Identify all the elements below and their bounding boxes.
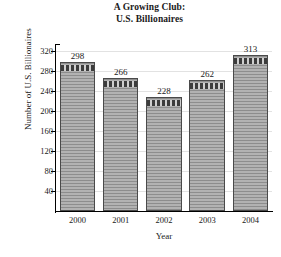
chart-title-line-1: A Growing Club: bbox=[18, 2, 281, 14]
y-tick-label: 80 bbox=[45, 166, 54, 176]
y-tick-label: 200 bbox=[40, 106, 53, 116]
y-tick-label: 280 bbox=[40, 66, 53, 76]
chart-title: A Growing Club: U.S. Billionaires bbox=[0, 2, 281, 25]
bar-group: 2662001 bbox=[99, 46, 142, 211]
x-axis-line bbox=[55, 211, 273, 212]
x-tick-label: 2001 bbox=[99, 215, 142, 225]
y-axis-title: Number of U.S. Billionaires bbox=[23, 4, 33, 154]
bar-group: 2982000 bbox=[56, 46, 99, 211]
bar bbox=[233, 55, 268, 212]
bar bbox=[60, 62, 95, 211]
y-tick-label: 120 bbox=[40, 146, 53, 156]
y-tick-label: 240 bbox=[40, 86, 53, 96]
bar-top-band bbox=[61, 65, 94, 71]
x-tick-label: 2004 bbox=[229, 215, 272, 225]
x-axis-title: Year bbox=[56, 231, 272, 241]
plot-area: 4080120160200240280320 29820002662001228… bbox=[56, 46, 272, 211]
bar-top-band bbox=[147, 100, 180, 106]
bar-top-band bbox=[104, 81, 137, 87]
bar-value-label: 298 bbox=[56, 51, 99, 61]
x-tick-label: 2002 bbox=[142, 215, 185, 225]
bar bbox=[103, 78, 138, 211]
bar-value-label: 262 bbox=[186, 69, 229, 79]
bar-value-label: 266 bbox=[99, 67, 142, 77]
bar-value-label: 228 bbox=[142, 86, 185, 96]
y-tick-label: 320 bbox=[40, 46, 53, 56]
y-tick-label: 160 bbox=[40, 126, 53, 136]
bar-group: 2622003 bbox=[186, 46, 229, 211]
bar-group: 2282002 bbox=[142, 46, 185, 211]
bar bbox=[146, 97, 181, 211]
bar-group: 3132004 bbox=[229, 46, 272, 211]
x-tick-label: 2000 bbox=[56, 215, 99, 225]
bar-value-label: 313 bbox=[229, 44, 272, 54]
chart-title-line-2: U.S. Billionaires bbox=[18, 14, 281, 26]
x-tick-label: 2003 bbox=[186, 215, 229, 225]
y-axis-cap bbox=[55, 44, 60, 45]
bar bbox=[189, 80, 224, 211]
y-tick-label: 40 bbox=[45, 186, 54, 196]
bar-top-band bbox=[234, 58, 267, 64]
bar-top-band bbox=[190, 83, 223, 89]
